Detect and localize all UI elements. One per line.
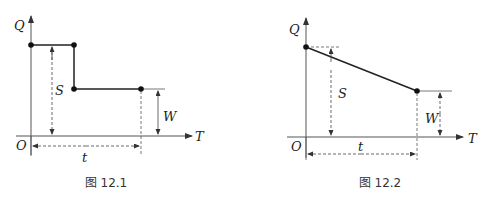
x-axis-label: T <box>468 131 478 146</box>
figure-12-1: Q T O S W t 图 12.1 <box>14 16 205 190</box>
inventory-step-line <box>31 45 141 89</box>
point-start <box>303 44 309 50</box>
y-axis-label: Q <box>289 22 300 37</box>
point-end <box>414 88 420 94</box>
origin-label: O <box>291 139 302 154</box>
t-label: t <box>358 139 364 154</box>
origin-label: O <box>16 138 27 153</box>
w-label: W <box>425 111 440 126</box>
s-label: S <box>338 86 347 101</box>
s-label: S <box>55 83 64 98</box>
point-drop-top <box>71 42 77 48</box>
w-label: W <box>163 109 178 124</box>
inventory-decline-line <box>306 47 417 91</box>
x-axis-label: T <box>195 129 205 144</box>
point-end <box>138 86 144 92</box>
point-start <box>28 42 34 48</box>
t-label: t <box>82 150 88 165</box>
figure-caption: 图 12.1 <box>85 176 128 190</box>
diagram-canvas: Q T O S W t 图 12.1 Q T O <box>0 0 483 197</box>
figure-caption: 图 12.2 <box>359 176 402 190</box>
y-axis-label: Q <box>14 18 25 33</box>
figure-12-2: Q T O S W t 图 12.2 <box>287 18 478 190</box>
point-drop-bottom <box>71 86 77 92</box>
